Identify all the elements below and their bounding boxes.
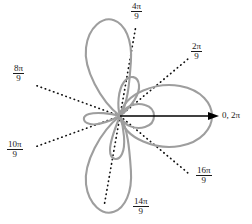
fraction-denominator: 9 [196, 176, 212, 185]
fraction-denominator: 9 [131, 12, 142, 21]
polar-axis [120, 112, 219, 120]
ray-label-10pi-9: 10π 9 [7, 140, 23, 160]
fraction-denominator: 9 [13, 74, 24, 83]
fraction-8pi-9: 8π 9 [13, 64, 24, 84]
polar-axis-arrowhead [208, 112, 219, 120]
ray-label-8pi-9: 8π 9 [13, 64, 24, 84]
polar-rose-figure [0, 0, 252, 224]
fraction-4pi-9: 4π 9 [131, 2, 142, 22]
fraction-denominator: 9 [7, 150, 23, 159]
fraction-16pi-9: 16π 9 [196, 166, 212, 186]
axis-label-zero-twopi: 0, 2π [222, 111, 240, 120]
fraction-14pi-9: 14π 9 [133, 197, 149, 217]
ray-8pi-9 [34, 85, 121, 117]
ray-label-2pi-9: 2π 9 [191, 42, 202, 62]
ray-label-4pi-9: 4π 9 [131, 2, 142, 22]
ray-label-14pi-9: 14π 9 [133, 197, 149, 217]
fraction-denominator: 9 [191, 52, 202, 61]
fraction-10pi-9: 10π 9 [7, 140, 23, 160]
fraction-2pi-9: 2π 9 [191, 42, 202, 62]
fraction-denominator: 9 [133, 207, 149, 216]
ray-label-16pi-9: 16π 9 [196, 166, 212, 186]
petal-small-180deg [84, 113, 120, 124]
